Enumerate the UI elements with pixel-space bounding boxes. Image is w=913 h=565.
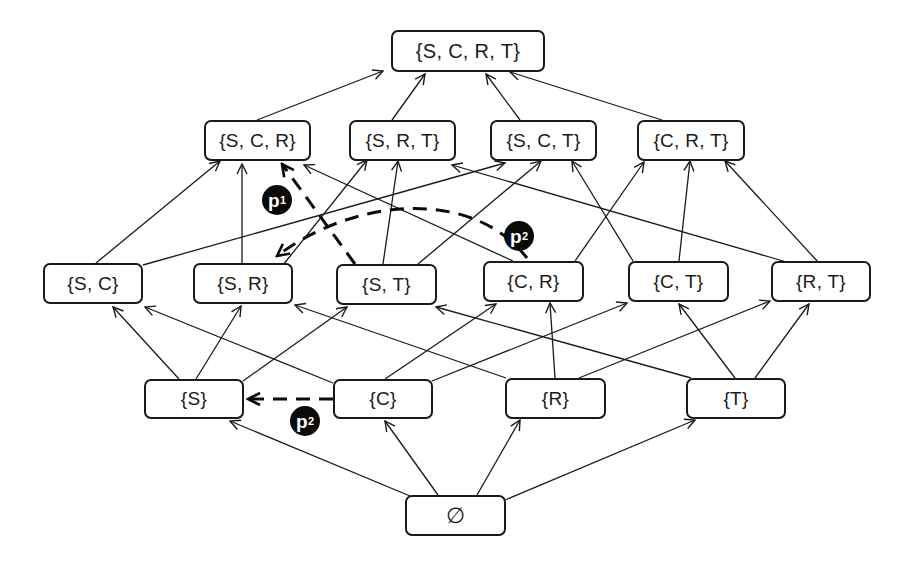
- node-label: {C}: [369, 388, 396, 410]
- node-scr: {S, C, R}: [204, 120, 311, 161]
- badge-subscript: 2: [522, 231, 528, 242]
- node-label: {T}: [723, 388, 748, 410]
- edge-ct-to-crt: [679, 161, 690, 261]
- node-label: {R}: [542, 388, 569, 410]
- lattice-diagram: {S, C, R, T}{S, C, R}{S, R, T}{S, C, T}{…: [0, 0, 913, 565]
- node-srt: {S, R, T}: [349, 120, 456, 161]
- node-c: {C}: [333, 379, 433, 419]
- node-label: {S, C}: [67, 273, 118, 295]
- node-sct: {S, C, T}: [490, 120, 597, 161]
- edge-c-to-sc: [145, 307, 333, 383]
- node-label: {S, R}: [217, 273, 268, 295]
- node-label: {S, T}: [362, 274, 411, 296]
- node-sc: {S, C}: [43, 263, 143, 304]
- node-label: {S, C, R, T}: [416, 40, 520, 63]
- node-cr: {C, R}: [483, 261, 584, 302]
- edge-r-to-sr: [295, 305, 506, 378]
- edge-sct-to-scrt: [486, 74, 520, 120]
- node-label: {S}: [181, 388, 207, 410]
- edge-sr-to-srt: [283, 160, 367, 265]
- edge-empty-to-r: [477, 420, 520, 495]
- path-badge-p2a: p2: [504, 221, 534, 251]
- node-scrt: {S, C, R, T}: [391, 30, 545, 72]
- edge-t-to-rt: [755, 304, 809, 378]
- node-ct: {C, T}: [628, 261, 729, 302]
- node-label: {R, T}: [796, 271, 846, 293]
- badge-letter: p: [268, 191, 280, 210]
- badge-letter: p: [510, 227, 522, 246]
- edge-empty-to-s: [230, 421, 410, 496]
- path-badge-p2b: p2: [290, 406, 320, 436]
- badge-letter: p: [296, 412, 308, 431]
- node-label: {S, R, T}: [365, 130, 439, 152]
- edge-empty-to-c: [385, 421, 438, 495]
- edge-rt-to-srt: [452, 165, 790, 263]
- badge-subscript: 1: [280, 195, 286, 206]
- edge-st-to-srt: [383, 161, 398, 264]
- edge-r-to-rt: [579, 301, 770, 378]
- node-sr: {S, R}: [193, 263, 293, 304]
- node-empty: ∅: [405, 495, 506, 536]
- edge-cr-to-scr: [304, 165, 513, 261]
- node-label: {C, R, T}: [653, 130, 728, 152]
- edge-t-to-ct: [679, 304, 735, 378]
- edge-srt-to-scrt: [392, 74, 425, 120]
- edge-sc-to-scr: [96, 161, 220, 263]
- edge-crt-to-scrt: [510, 72, 662, 120]
- badge-subscript: 2: [308, 416, 314, 427]
- node-r: {R}: [505, 378, 606, 419]
- edge-ct-to-sct: [572, 161, 633, 261]
- edge-cr-to-crt: [575, 162, 644, 261]
- node-t: {T}: [686, 378, 786, 419]
- node-rt: {R, T}: [771, 261, 871, 302]
- node-label: {S, C, R}: [219, 130, 296, 152]
- node-label: ∅: [446, 503, 465, 529]
- node-label: {C, T}: [653, 271, 703, 293]
- edge-s-to-sc: [113, 307, 179, 379]
- node-label: {C, R}: [507, 271, 560, 293]
- node-crt: {C, R, T}: [637, 120, 745, 161]
- edge-scr-to-scrt: [257, 71, 383, 120]
- node-s: {S}: [144, 379, 244, 419]
- node-label: {S, C, T}: [506, 130, 580, 152]
- path-badge-p1: p1: [262, 185, 292, 215]
- node-st: {S, T}: [336, 264, 437, 305]
- edge-empty-to-t: [505, 420, 695, 500]
- path-p1-dashed-arrow: [282, 164, 355, 264]
